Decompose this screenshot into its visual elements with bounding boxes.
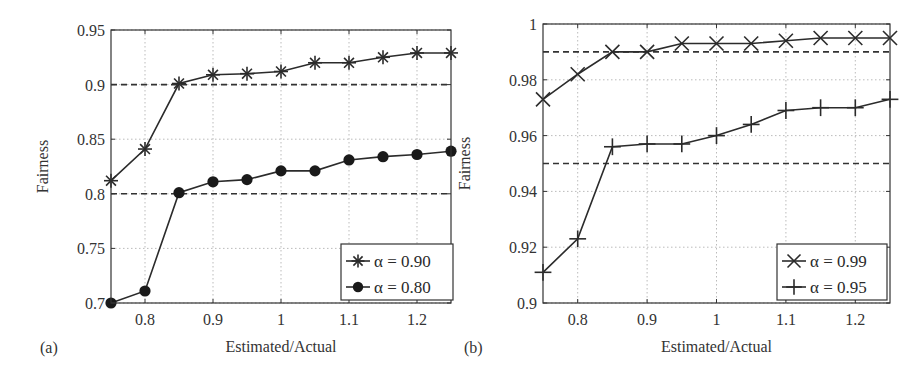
data-point [206, 68, 220, 82]
x-tick-label: 1.2 [407, 311, 427, 328]
data-point [377, 151, 388, 162]
data-point [241, 174, 252, 185]
x-tick-label: 1.1 [776, 311, 796, 328]
data-point [308, 56, 322, 70]
chart-panel-b: 0.90.920.940.960.981 0.80.911.11.2 Estim… [456, 16, 898, 357]
legend-label: α = 0.99 [810, 252, 867, 271]
y-axis-label: Fairness [456, 137, 473, 190]
data-point [207, 176, 218, 187]
data-point [708, 127, 725, 144]
y-tick-label: 0.92 [509, 239, 537, 256]
y-tick-label: 0.9 [85, 77, 105, 94]
x-axis-label: Estimated/Actual [661, 338, 773, 355]
x-tick-label: 0.8 [568, 311, 588, 328]
data-point [743, 116, 760, 133]
data-point [240, 67, 254, 81]
x-tick-label: 0.8 [135, 311, 155, 328]
x-tick-label: 0.9 [637, 311, 657, 328]
y-tick-label: 0.75 [77, 240, 105, 257]
x-tick-label: 1 [277, 311, 285, 328]
data-point [673, 136, 690, 153]
data-point [778, 102, 795, 119]
data-point [604, 138, 621, 155]
x-tick-label: 1.2 [845, 311, 865, 328]
y-tick-label: 0.8 [85, 186, 105, 203]
data-point [139, 285, 150, 296]
y-tick-label: 0.7 [85, 295, 105, 312]
y-tick-label: 0.98 [509, 72, 537, 89]
y-tick-label: 1 [529, 16, 537, 33]
data-point [343, 154, 354, 165]
data-point [138, 142, 152, 156]
legend-entry: α = 0.95 [782, 278, 867, 297]
y-tick-label: 0.85 [77, 131, 105, 148]
y-tick-label: 0.9 [517, 295, 537, 312]
legend-label: α = 0.90 [374, 252, 431, 271]
data-point [342, 56, 356, 70]
figure: 0.70.750.80.850.90.95 0.80.911.11.2 Esti… [0, 0, 924, 384]
data-point [274, 64, 288, 78]
data-point [410, 46, 424, 60]
x-tick-label: 0.9 [203, 311, 223, 328]
x-tick-label: 1.1 [339, 311, 359, 328]
panel-label: (a) [40, 339, 58, 357]
legend-label: α = 0.95 [810, 278, 867, 297]
legend: α = 0.99 α = 0.95 [777, 244, 887, 300]
data-point [275, 165, 286, 176]
x-axis-label: Estimated/Actual [225, 338, 337, 355]
panel-label: (b) [464, 339, 483, 357]
y-tick-label: 0.95 [77, 22, 105, 39]
y-tick-label: 0.94 [509, 183, 537, 200]
x-tick-label: 1 [713, 311, 721, 328]
data-point [376, 50, 390, 64]
chart-panel-a: 0.70.750.80.850.90.95 0.80.911.11.2 Esti… [34, 22, 458, 357]
y-axis-label: Fairness [34, 140, 51, 193]
data-point [639, 136, 656, 153]
data-point [173, 187, 184, 198]
data-point [847, 99, 864, 116]
data-point [411, 149, 422, 160]
legend-label: α = 0.80 [374, 278, 431, 297]
legend: α = 0.90 α = 0.80 [341, 244, 453, 300]
data-point [309, 165, 320, 176]
data-point [172, 77, 186, 91]
data-point [812, 99, 829, 116]
y-tick-label: 0.96 [509, 128, 537, 145]
